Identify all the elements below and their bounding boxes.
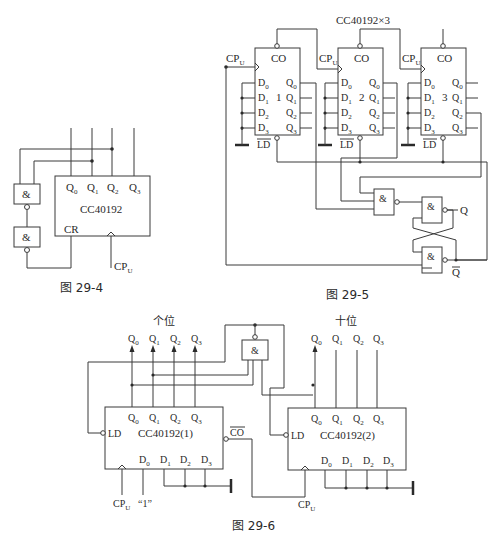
gate-label: & [427,201,435,212]
co-label: CO [437,52,452,64]
q-output-label: Q [460,204,468,216]
figure-29-4: & & Q0 Q1 Q2 Q3 CC40192 CR CPU 图 29-4 [14,128,150,295]
svg-text:2: 2 [359,91,365,103]
cpu-label: CPU [226,52,245,67]
co-label: CO [230,427,244,438]
chip-name: CC40192 [80,203,122,215]
svg-text:1: 1 [276,91,282,103]
figure-caption: 图 29-5 [326,288,369,302]
svg-text:Q0: Q0 [128,333,139,347]
ones-digit-label: 个位 [153,314,175,327]
d0-value-label: “1” [138,498,152,509]
qbar-output-label: Q [452,266,460,278]
circuit-diagrams: & & Q0 Q1 Q2 Q3 CC40192 CR CPU 图 29-4 CC… [0,0,498,540]
ld-label: LD [423,139,436,150]
chip-name: CC40192(2) [320,429,375,442]
gate-label: & [379,193,387,204]
cr-label: CR [64,223,79,235]
cpu-label: CPU [402,52,421,67]
cpu-label: CPU [319,52,338,67]
gate-label: & [22,231,31,243]
svg-text:Q2: Q2 [353,333,364,347]
svg-text:3: 3 [442,91,448,103]
chip-name: CC40192(1) [138,427,193,440]
ld-label: LD [291,430,304,441]
gate-label: & [251,345,259,356]
figure-29-5: CC40192×3 [224,14,487,302]
svg-text:Q1: Q1 [332,333,343,347]
svg-text:Q2: Q2 [170,333,181,347]
svg-text:Q1: Q1 [149,333,160,347]
figure-29-6: 个位 十位 Q0 Q1 Q2 Q3 & [88,314,413,533]
svg-text:Q0: Q0 [311,333,322,347]
figure-title: CC40192×3 [336,14,390,26]
svg-text:Q3: Q3 [373,333,384,347]
svg-text:Q3: Q3 [191,333,202,347]
cpu-label: CPU [298,499,315,513]
tens-digit-label: 十位 [335,314,357,327]
ld-label: LD [340,139,353,150]
co-label: CO [271,52,286,64]
gate-label: & [427,251,435,262]
ones-outputs: Q0 Q1 Q2 Q3 [128,333,202,407]
ld-label: LD [108,428,121,439]
tens-outputs: Q0 Q1 Q2 Q3 [311,333,384,408]
co-label: CO [354,52,369,64]
gate-label: & [22,188,31,200]
ld-label: LD [257,139,270,150]
figure-caption: 图 29-6 [232,519,275,533]
figure-caption: 图 29-4 [60,281,103,295]
cpu-label: CPU [114,260,133,275]
cpu-label: CPU [113,498,130,512]
